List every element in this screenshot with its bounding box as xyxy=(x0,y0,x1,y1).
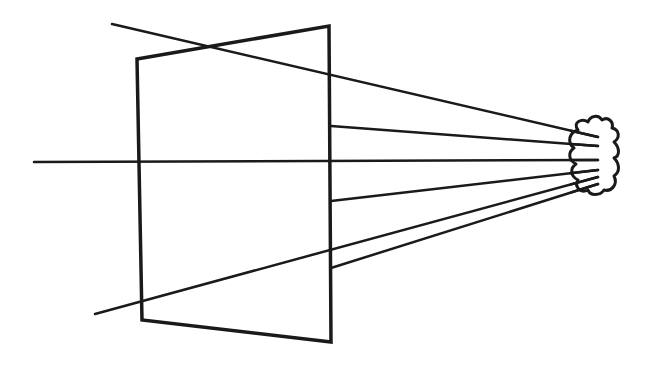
ray-stub xyxy=(571,131,598,137)
ray-upper xyxy=(331,126,598,146)
diagram-svg xyxy=(0,0,663,367)
ray-stub xyxy=(570,170,598,173)
central-axis-line xyxy=(34,160,598,162)
ray-stub xyxy=(570,144,598,146)
ray-bottom-through xyxy=(95,177,598,314)
ray-top-through xyxy=(112,24,598,137)
projection-diagram xyxy=(0,0,663,367)
projection-rays xyxy=(95,24,598,314)
